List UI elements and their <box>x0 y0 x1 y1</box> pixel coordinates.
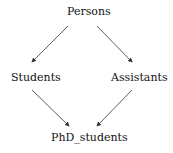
node-students: Students <box>11 71 61 84</box>
edge-assistants-phd <box>97 90 132 126</box>
edge-students-phd <box>32 90 69 126</box>
node-persons: Persons <box>67 5 111 18</box>
node-assistants: Assistants <box>111 71 168 84</box>
edge-persons-students <box>32 26 68 62</box>
node-phd-students: PhD_students <box>51 131 128 144</box>
edge-persons-assistants <box>97 26 132 62</box>
